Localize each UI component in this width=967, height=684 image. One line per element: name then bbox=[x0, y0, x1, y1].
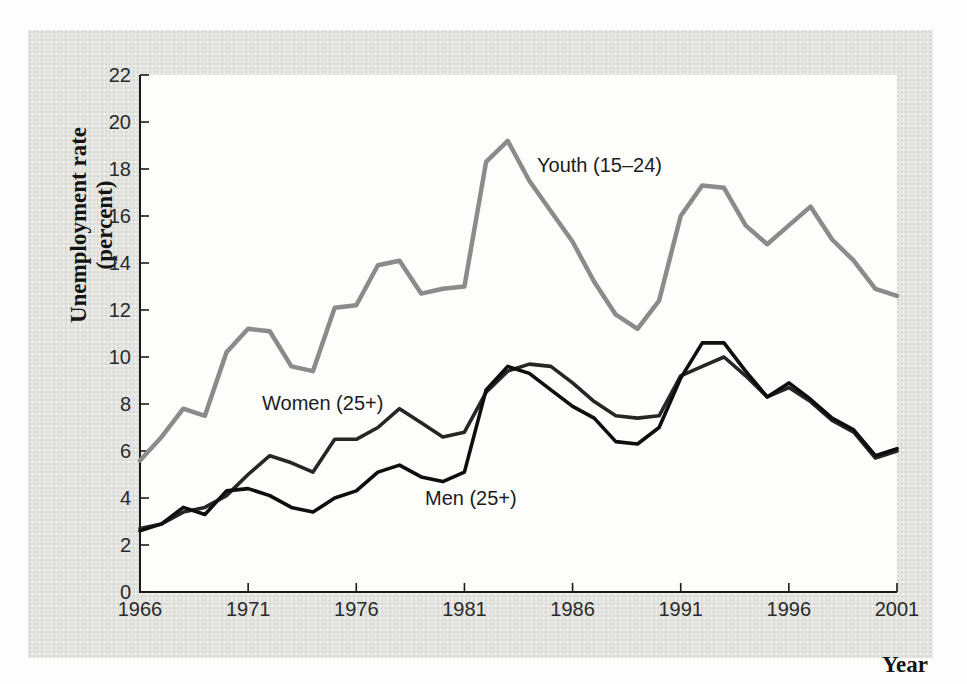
y-tick-label: 22 bbox=[109, 64, 131, 86]
y-tick-label: 8 bbox=[120, 393, 131, 415]
x-tick-label: 1996 bbox=[767, 598, 812, 620]
plot-area bbox=[140, 75, 897, 592]
y-tick-label: 12 bbox=[109, 299, 131, 321]
y-tick-label: 18 bbox=[109, 158, 131, 180]
x-tick-label: 2001 bbox=[875, 598, 920, 620]
y-tick-label: 4 bbox=[120, 487, 131, 509]
y-tick-label: 20 bbox=[109, 111, 131, 133]
series-label-men: Men (25+) bbox=[425, 487, 517, 509]
series-label-women: Women (25+) bbox=[262, 392, 383, 414]
x-tick-label: 1976 bbox=[334, 598, 379, 620]
x-tick-label: 1966 bbox=[118, 598, 163, 620]
y-tick-label: 14 bbox=[109, 252, 131, 274]
series-label-youth: Youth (15–24) bbox=[537, 154, 662, 176]
x-tick-label: 1991 bbox=[658, 598, 703, 620]
y-tick-label: 16 bbox=[109, 205, 131, 227]
x-tick-label: 1981 bbox=[442, 598, 487, 620]
x-tick-label: 1971 bbox=[226, 598, 271, 620]
unemployment-rate-chart: 0246810121416182022196619711976198119861… bbox=[0, 0, 967, 684]
y-tick-label: 6 bbox=[120, 440, 131, 462]
y-tick-label: 10 bbox=[109, 346, 131, 368]
x-tick-label: 1986 bbox=[550, 598, 595, 620]
y-tick-label: 2 bbox=[120, 534, 131, 556]
